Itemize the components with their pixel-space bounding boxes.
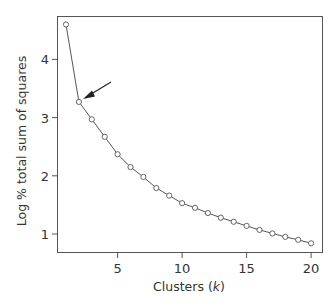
data-point	[283, 234, 288, 239]
y-axis-ticks: 1234	[41, 52, 58, 242]
series-line	[66, 25, 311, 244]
data-point	[141, 174, 146, 179]
data-point	[180, 201, 185, 206]
y-tick-label: 2	[41, 169, 49, 184]
data-point	[63, 22, 68, 27]
data-point	[270, 231, 275, 236]
data-point	[205, 210, 210, 215]
data-point	[102, 134, 107, 139]
data-point	[167, 193, 172, 198]
data-point	[154, 185, 159, 190]
data-point	[257, 227, 262, 232]
data-point	[296, 237, 301, 242]
plot-frame	[58, 17, 323, 253]
data-point	[244, 223, 249, 228]
y-axis-label: Log % total sum of squares	[14, 56, 29, 226]
elbow-chart: 1234 5101520 Clusters (k) Log % total su…	[0, 0, 335, 308]
x-tick-label: 20	[303, 261, 320, 276]
data-point	[89, 117, 94, 122]
y-tick-label: 4	[41, 52, 49, 67]
data-point-markers	[63, 22, 313, 246]
data-point	[192, 205, 197, 210]
elbow-arrow-annotation	[83, 82, 111, 99]
data-point	[115, 152, 120, 157]
x-tick-label: 5	[113, 261, 121, 276]
x-axis-ticks: 5101520	[113, 253, 319, 277]
data-point	[231, 219, 236, 224]
data-point	[76, 99, 81, 104]
y-tick-label: 3	[41, 111, 49, 126]
data-point	[309, 241, 314, 246]
x-tick-label: 15	[238, 261, 255, 276]
data-point	[218, 215, 223, 220]
x-axis-label: Clusters (k)	[153, 279, 225, 294]
y-tick-label: 1	[41, 227, 49, 242]
x-tick-label: 10	[174, 261, 191, 276]
data-point	[128, 164, 133, 169]
